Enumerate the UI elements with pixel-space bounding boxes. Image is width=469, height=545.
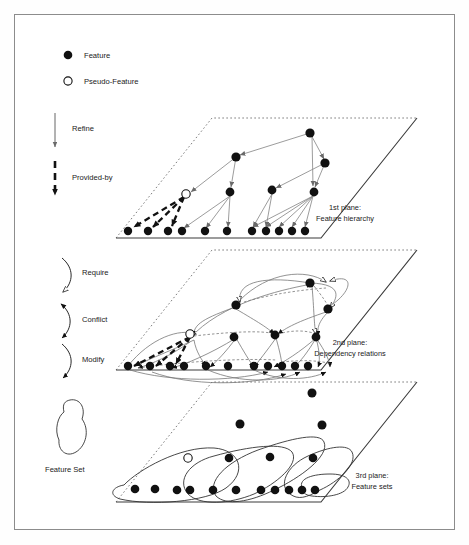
feature-set-blob-icon [57, 400, 87, 454]
pseudo-feature-node [182, 190, 190, 198]
plane-3-label-line1: 3rd plane: [356, 471, 389, 480]
legend-label-provided-by: Provided-by [72, 173, 113, 182]
feature-node [291, 362, 299, 370]
feature-node [201, 227, 209, 235]
feature-node [231, 152, 240, 161]
require-arrow-icon [62, 258, 71, 292]
feature-node [318, 421, 327, 430]
feature-node [266, 453, 275, 462]
feature-node [310, 188, 319, 197]
plane-3-label-line2: Feature sets [351, 482, 392, 491]
feature-node [271, 486, 280, 495]
feature-node [173, 486, 182, 495]
feature-node [124, 362, 132, 370]
plane-1-nodes [124, 128, 330, 235]
feature-node [232, 486, 241, 495]
feature-node [320, 158, 329, 167]
feature-set-outline [113, 448, 239, 502]
feature-node [248, 227, 256, 235]
diagram-canvas: Feature Pseudo-Feature Refine Provided-b… [0, 0, 469, 545]
legend-label-feature-set: Feature Set [45, 465, 86, 474]
plane-2-provided-by-edges [134, 337, 190, 366]
feature-node [209, 486, 218, 495]
feature-node [268, 186, 277, 195]
feature-node [180, 362, 188, 370]
pseudo-feature-node [186, 330, 194, 338]
feature-node [264, 362, 272, 370]
feature-set-outline [184, 446, 294, 502]
feature-node [224, 362, 232, 370]
feature-node [124, 227, 132, 235]
feature-set-outline [301, 474, 349, 497]
feature-node [301, 227, 309, 235]
feature-node [262, 227, 270, 235]
legend-label-feature: Feature [84, 51, 110, 60]
feature-node [271, 331, 280, 340]
legend-label-modify: Modify [82, 355, 105, 364]
plane-1-label-line2: Feature hierarchy [316, 214, 374, 223]
feature-node [223, 227, 231, 235]
feature-node [146, 362, 154, 370]
figure-root: Feature Pseudo-Feature Refine Provided-b… [0, 0, 469, 545]
feature-node [226, 188, 235, 197]
plane-1-refine-edges [184, 133, 325, 228]
feature-node [323, 304, 332, 313]
legend-label-pseudo-feature: Pseudo-Feature [84, 77, 138, 86]
filled-circle-icon [64, 51, 73, 60]
feature-node [250, 362, 258, 370]
plane-1-provided-by-edges [134, 197, 184, 227]
feature-node [308, 389, 317, 398]
plane-2-dependency-arcs [128, 274, 348, 383]
feature-node [288, 227, 296, 235]
feature-node [278, 362, 286, 370]
feature-node [202, 362, 210, 370]
feature-node [164, 227, 172, 235]
modify-arrow-icon [62, 344, 71, 378]
plane-1-feature-hierarchy: 1st plane: Feature hierarchy [116, 118, 417, 238]
feature-node [236, 420, 245, 429]
feature-node [151, 485, 160, 494]
feature-node [309, 454, 318, 463]
legend-label-refine: Refine [72, 124, 94, 133]
feature-node [231, 300, 240, 309]
legend-item-feature-set: Feature Set [45, 400, 86, 474]
feature-node [131, 485, 140, 494]
open-circle-icon [64, 77, 72, 85]
legend-item-pseudo-feature: Pseudo-Feature [64, 77, 139, 86]
plane-2-dependency-relations: 2nd plane: Dependency relations [116, 250, 417, 383]
legend-label-conflict: Conflict [82, 315, 108, 324]
legend-item-provided-by: Provided-by [55, 161, 113, 195]
plane-2-label-line2: Dependency relations [314, 349, 386, 358]
feature-node [298, 486, 307, 495]
legend: Feature Pseudo-Feature Refine Provided-b… [45, 51, 138, 474]
feature-node [304, 362, 312, 370]
feature-node [311, 486, 320, 495]
feature-node [230, 333, 239, 342]
feature-node [166, 362, 174, 370]
legend-label-require: Require [82, 268, 109, 277]
legend-item-refine: Refine [55, 113, 94, 147]
feature-set-outline [213, 437, 324, 502]
feature-node [257, 486, 266, 495]
pseudo-feature-node [184, 454, 192, 462]
feature-node [144, 227, 152, 235]
feature-node [186, 486, 195, 495]
feature-node [225, 454, 234, 463]
plane-1-label-line1: 1st plane: [329, 203, 361, 212]
plane-3-nodes [131, 389, 327, 495]
legend-item-modify: Modify [62, 344, 105, 378]
legend-item-feature: Feature [64, 51, 110, 60]
feature-node [305, 278, 314, 287]
legend-item-conflict: Conflict [61, 304, 108, 338]
feature-node [312, 333, 321, 342]
feature-node [275, 227, 283, 235]
plane-2-nodes [124, 278, 333, 370]
feature-node [178, 227, 186, 235]
feature-node [305, 128, 314, 137]
feature-node [285, 486, 294, 495]
legend-item-require: Require [62, 258, 109, 292]
plane-3-feature-sets: 3rd plane: Feature sets [113, 382, 417, 502]
conflict-arrow-icon [61, 304, 70, 338]
plane-2-label-line1: 2nd plane: [333, 338, 368, 347]
